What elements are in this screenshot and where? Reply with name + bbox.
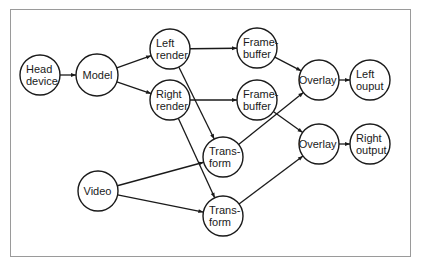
node-label: form xyxy=(209,216,231,228)
node-tf2: Trans-form xyxy=(203,196,243,236)
node-model: Model xyxy=(76,54,118,96)
node-rout: Rightoutput xyxy=(350,124,390,164)
node-label: Overlay xyxy=(299,74,337,86)
node-label: Frame- xyxy=(243,88,279,100)
dataflow-diagram: HeaddeviceModelLeftrenderRightrenderFram… xyxy=(0,0,423,271)
node-label: buffer xyxy=(243,100,271,112)
node-head: Headdevice xyxy=(20,55,60,95)
node-ov2: Overlay xyxy=(299,124,339,164)
edge-video-to-tf2 xyxy=(118,195,204,212)
node-rrender: Rightrender xyxy=(150,80,190,120)
edge-tf2-to-ov2 xyxy=(239,156,303,204)
node-label: form xyxy=(209,157,231,169)
node-label: Left xyxy=(356,68,374,80)
edge-model-to-lrender xyxy=(117,56,151,68)
node-label: output xyxy=(356,144,387,156)
node-label: buffer xyxy=(243,48,271,60)
node-video: Video xyxy=(78,171,118,211)
node-label: Video xyxy=(84,185,112,197)
node-label: Model xyxy=(83,69,113,81)
node-label: Left xyxy=(156,37,174,49)
node-lrender: Leftrender xyxy=(150,29,190,69)
node-label: ouput xyxy=(356,80,384,92)
edge-fb1-to-ov1 xyxy=(275,57,301,71)
edge-lrender-to-fb1 xyxy=(190,48,237,49)
nodes: HeaddeviceModelLeftrenderRightrenderFram… xyxy=(20,28,390,236)
edge-video-to-tf1 xyxy=(117,162,203,186)
node-label: Head xyxy=(26,63,52,75)
node-label: Right xyxy=(156,88,182,100)
node-label: render xyxy=(156,49,188,61)
node-label: Right xyxy=(356,132,382,144)
node-fb1: Frame-buffer xyxy=(237,28,279,68)
node-label: render xyxy=(156,100,188,112)
edge-model-to-rrender xyxy=(117,82,151,94)
node-label: Trans- xyxy=(209,204,241,216)
edge-fb2-to-ov2 xyxy=(273,112,302,133)
node-label: device xyxy=(26,75,58,87)
node-label: Trans- xyxy=(209,145,241,157)
node-ov1: Overlay xyxy=(299,60,339,100)
node-tf1: Trans-form xyxy=(203,137,243,177)
node-label: Overlay xyxy=(299,138,337,150)
node-fb2: Frame-buffer xyxy=(237,80,279,120)
node-label: Frame- xyxy=(243,36,279,48)
node-lout: Leftouput xyxy=(350,60,390,100)
